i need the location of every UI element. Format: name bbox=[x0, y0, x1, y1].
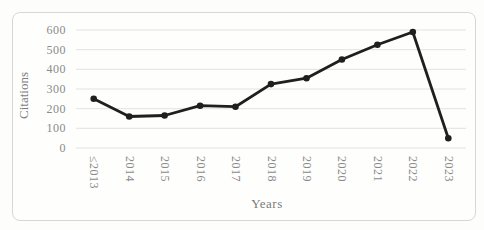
y-tick-label: 600 bbox=[0, 23, 66, 37]
data-point-marker bbox=[232, 103, 239, 110]
data-point-marker bbox=[197, 102, 204, 109]
data-point-marker bbox=[126, 113, 133, 120]
x-tick-label: 2018 bbox=[265, 156, 278, 182]
y-tick-label: 300 bbox=[0, 82, 66, 96]
data-point-marker bbox=[374, 42, 381, 49]
data-point-marker bbox=[339, 56, 346, 63]
data-point-marker bbox=[445, 135, 452, 142]
x-tick-label: 2021 bbox=[371, 156, 384, 182]
figure-canvas: 0100200300400500600 ≤2013201420152016201… bbox=[0, 0, 484, 230]
y-tick-label: 100 bbox=[0, 121, 66, 135]
y-axis-title: Citations bbox=[17, 72, 31, 119]
y-tick-label: 400 bbox=[0, 62, 66, 76]
y-tick-label: 200 bbox=[0, 102, 66, 116]
x-tick-label: 2014 bbox=[123, 156, 136, 182]
data-point-marker bbox=[410, 29, 417, 36]
data-point-marker bbox=[161, 112, 168, 119]
y-tick-label: 0 bbox=[0, 141, 66, 155]
y-tick-label: 500 bbox=[0, 43, 66, 57]
data-point-marker bbox=[268, 81, 275, 88]
x-tick-label: 2023 bbox=[442, 156, 455, 182]
x-tick-label: 2017 bbox=[229, 156, 242, 182]
data-point-marker bbox=[90, 96, 97, 103]
x-tick-label: 2015 bbox=[158, 156, 171, 182]
x-tick-label: 2022 bbox=[406, 156, 419, 182]
x-tick-label: ≤2013 bbox=[87, 156, 100, 189]
x-axis-title: Years bbox=[167, 196, 367, 211]
x-tick-label: 2019 bbox=[300, 156, 313, 182]
data-point-marker bbox=[303, 75, 310, 82]
x-tick-label: 2016 bbox=[194, 156, 207, 182]
x-tick-label: 2020 bbox=[335, 156, 348, 182]
